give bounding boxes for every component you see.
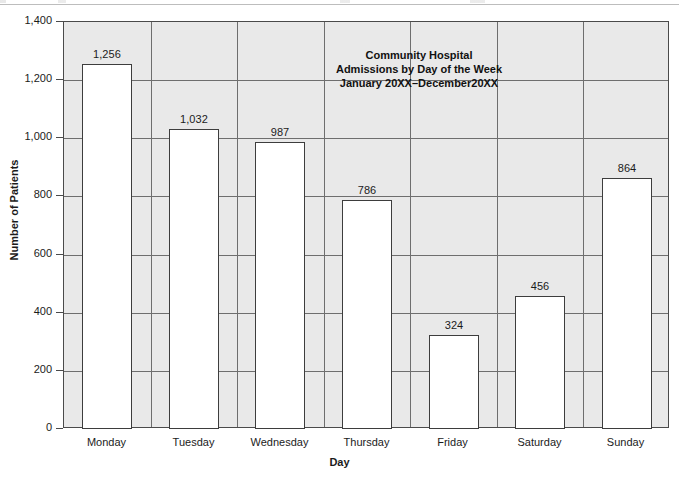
gridline-1000 bbox=[64, 138, 668, 139]
bar-saturday bbox=[515, 296, 565, 429]
bar-tuesday bbox=[169, 129, 219, 429]
bar-wednesday bbox=[255, 142, 305, 429]
bar-monday bbox=[82, 64, 132, 429]
x-axis-label-monday: Monday bbox=[63, 436, 150, 448]
y-axis-tick-600 bbox=[56, 254, 63, 255]
chart-title-line-3: January 20XX–December20XX bbox=[299, 76, 539, 90]
y-axis-tick-800 bbox=[56, 195, 63, 196]
plot-area: 1,2561,032987786324456864 Community Hosp… bbox=[63, 21, 669, 428]
chart-title: Community Hospital Admissions by Day of … bbox=[299, 48, 539, 90]
bar-thursday bbox=[342, 200, 392, 429]
x-axis-label-tuesday: Tuesday bbox=[150, 436, 237, 448]
bar-chart: Number of Patients 02004006008001,0001,2… bbox=[0, 0, 679, 477]
category-separator bbox=[237, 22, 238, 427]
y-axis-tick-0 bbox=[56, 428, 63, 429]
bar-sunday bbox=[602, 178, 652, 429]
y-axis-tick-label-600: 600 bbox=[0, 247, 52, 259]
y-axis-tick-1200 bbox=[56, 79, 63, 80]
bar-value-label-sunday: 864 bbox=[582, 162, 672, 174]
chart-title-line-1: Community Hospital bbox=[299, 48, 539, 62]
y-axis-tick-200 bbox=[56, 370, 63, 371]
x-axis-label-saturday: Saturday bbox=[496, 436, 583, 448]
y-axis-tick-label-0: 0 bbox=[0, 421, 52, 433]
y-axis-tick-label-1200: 1,200 bbox=[0, 72, 52, 84]
bar-value-label-thursday: 786 bbox=[322, 184, 412, 196]
y-axis-tick-label-200: 200 bbox=[0, 363, 52, 375]
x-axis-label-wednesday: Wednesday bbox=[236, 436, 323, 448]
y-axis: 02004006008001,0001,2001,400 bbox=[0, 0, 63, 477]
x-axis-title: Day bbox=[0, 456, 679, 468]
category-separator bbox=[583, 22, 584, 427]
y-axis-tick-label-800: 800 bbox=[0, 188, 52, 200]
bar-value-label-saturday: 456 bbox=[495, 280, 585, 292]
bar-value-label-wednesday: 987 bbox=[235, 126, 325, 138]
bar-value-label-tuesday: 1,032 bbox=[149, 113, 239, 125]
y-axis-tick-label-1000: 1,000 bbox=[0, 130, 52, 142]
category-separator bbox=[151, 22, 152, 427]
bar-friday bbox=[429, 335, 479, 429]
gridline-800 bbox=[64, 196, 668, 197]
y-axis-tick-1400 bbox=[56, 21, 63, 22]
y-axis-tick-label-400: 400 bbox=[0, 305, 52, 317]
y-axis-tick-1000 bbox=[56, 137, 63, 138]
y-axis-tick-label-1400: 1,400 bbox=[0, 14, 52, 26]
bar-value-label-friday: 324 bbox=[409, 319, 499, 331]
x-axis-label-sunday: Sunday bbox=[582, 436, 669, 448]
x-axis-label-thursday: Thursday bbox=[323, 436, 410, 448]
chart-title-line-2: Admissions by Day of the Week bbox=[299, 62, 539, 76]
x-axis-label-friday: Friday bbox=[409, 436, 496, 448]
y-axis-tick-400 bbox=[56, 312, 63, 313]
bar-value-label-monday: 1,256 bbox=[62, 48, 152, 60]
